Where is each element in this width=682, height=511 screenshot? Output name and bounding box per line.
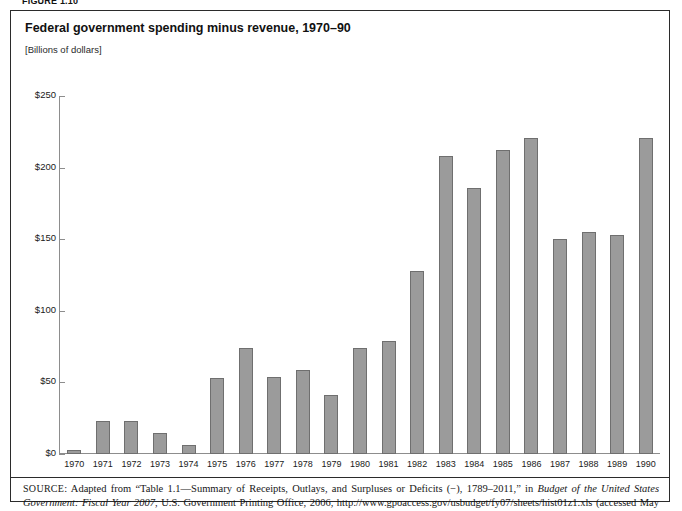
x-axis-label-1984: 1984 (460, 459, 489, 469)
bar-slot (289, 96, 318, 454)
bar-slot (431, 96, 460, 454)
x-axis-label-1983: 1983 (431, 459, 460, 469)
x-axis-label-1970: 1970 (60, 459, 89, 469)
bar-1972 (124, 421, 138, 454)
bar-1987 (553, 239, 567, 454)
bar-1977 (267, 377, 281, 454)
bar-1971 (96, 421, 110, 454)
bar-slot (231, 96, 260, 454)
bar-slot (517, 96, 546, 454)
bar-slot (346, 96, 375, 454)
bar-1981 (382, 341, 396, 454)
x-axis-label-1971: 1971 (89, 459, 118, 469)
bar-slot (374, 96, 403, 454)
x-axis-label-1987: 1987 (546, 459, 575, 469)
bar-slot (60, 96, 89, 454)
y-axis-tick: $50 (11, 382, 65, 383)
y-axis-tick: $200 (11, 168, 65, 169)
y-axis-tick-label: $0 (45, 447, 56, 458)
x-axis-label-1981: 1981 (374, 459, 403, 469)
bar-1980 (353, 348, 367, 454)
bar-chart-plot-area: $0$50$100$150$200$250 197019711972197319… (11, 11, 671, 458)
bar-slot (203, 96, 232, 454)
figure-label: FIGURE 1.10 (22, 0, 78, 6)
x-axis-label-1990: 1990 (631, 459, 660, 469)
bar-1988 (582, 232, 596, 454)
x-axis-label-1975: 1975 (203, 459, 232, 469)
bar-slot (260, 96, 289, 454)
bar-slot (146, 96, 175, 454)
y-axis-tick: $250 (11, 96, 65, 97)
y-axis-tick-label: $50 (40, 375, 56, 386)
source-note: SOURCE: Adapted from “Table 1.1—Summary … (23, 482, 659, 511)
bar-slot (574, 96, 603, 454)
bar-1973 (153, 433, 167, 454)
bar-slot (546, 96, 575, 454)
bar-1982 (410, 271, 424, 454)
bar-1979 (324, 395, 338, 454)
x-axis-label-1982: 1982 (403, 459, 432, 469)
bar-1975 (210, 378, 224, 454)
bar-1978 (296, 370, 310, 454)
bar-slot (117, 96, 146, 454)
y-axis-tick: $0 (11, 454, 65, 455)
bar-1989 (610, 235, 624, 454)
bar-1990 (639, 138, 653, 454)
x-axis-label-1985: 1985 (489, 459, 518, 469)
bar-slot (489, 96, 518, 454)
x-axis-label-1978: 1978 (289, 459, 318, 469)
source-text-part-1: : Adapted from “Table 1.1—Summary of Rec… (64, 483, 537, 494)
bar-1976 (239, 348, 253, 454)
x-axis-label-1979: 1979 (317, 459, 346, 469)
source-prefix: SOURCE (23, 483, 64, 494)
x-axis-label-1986: 1986 (517, 459, 546, 469)
y-axis-tick-label: $200 (35, 161, 56, 172)
x-axis-label-1988: 1988 (574, 459, 603, 469)
x-axis-label-1989: 1989 (603, 459, 632, 469)
bar-slot (603, 96, 632, 454)
y-axis-tick: $150 (11, 239, 65, 240)
y-axis-tick-mark (59, 454, 65, 455)
bar-1983 (439, 156, 453, 454)
bar-slot (174, 96, 203, 454)
bar-slot (403, 96, 432, 454)
bar-1970 (67, 450, 81, 454)
y-axis-tick-label: $150 (35, 232, 56, 243)
source-divider (11, 477, 669, 478)
x-axis-label-1973: 1973 (146, 459, 175, 469)
y-axis-tick-label: $250 (35, 89, 56, 100)
x-axis-label-1976: 1976 (231, 459, 260, 469)
bar-slot (460, 96, 489, 454)
figure-container: Federal government spending minus revenu… (10, 10, 670, 502)
bar-1974 (182, 445, 196, 454)
y-axis-tick: $100 (11, 311, 65, 312)
x-axis-label-1972: 1972 (117, 459, 146, 469)
bar-1985 (496, 150, 510, 454)
bar-1984 (467, 188, 481, 454)
x-axis-label-1980: 1980 (346, 459, 375, 469)
bars-layer (60, 96, 660, 454)
x-axis-label-1974: 1974 (174, 459, 203, 469)
x-axis-label-1977: 1977 (260, 459, 289, 469)
y-axis-tick-label: $100 (35, 304, 56, 315)
bar-slot (317, 96, 346, 454)
bar-1986 (524, 138, 538, 454)
bar-slot (631, 96, 660, 454)
bar-slot (89, 96, 118, 454)
